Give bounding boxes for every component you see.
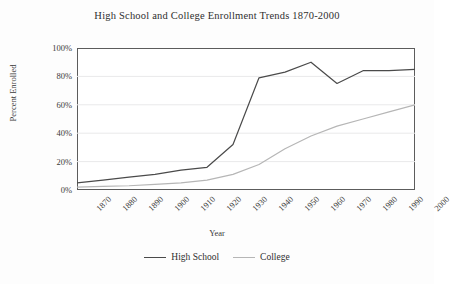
x-tick-label: 1870 [94, 194, 113, 213]
x-tick-label: 1980 [380, 194, 399, 213]
plot-area [77, 48, 415, 190]
legend-item-high-school[interactable]: High School [144, 253, 219, 263]
legend-label: High School [171, 253, 219, 263]
x-tick-label: 1940 [276, 194, 295, 213]
x-tick-label: 1900 [172, 194, 191, 213]
y-tick-label: 20% [2, 157, 72, 167]
y-tick-label: 0% [2, 185, 72, 195]
x-tick-label: 2000 [432, 194, 451, 213]
x-tick-label: 1910 [198, 194, 217, 213]
chart-legend: High SchoolCollege [0, 253, 434, 263]
y-tick-label: 60% [2, 100, 72, 110]
series-line-college [77, 105, 415, 187]
chart-title: High School and College Enrollment Trend… [0, 10, 434, 21]
plot-canvas [77, 48, 415, 190]
y-axis-ticks: 0%20%40%60%80%100% [0, 48, 72, 190]
legend-item-college[interactable]: College [233, 253, 290, 263]
x-tick-label: 1960 [328, 194, 347, 213]
y-tick-label: 100% [2, 43, 72, 53]
x-axis-label: Year [0, 228, 434, 238]
x-tick-label: 1930 [250, 194, 269, 213]
series-line-high-school [77, 62, 415, 183]
x-tick-label: 1990 [406, 194, 425, 213]
x-tick-label: 1890 [146, 194, 165, 213]
x-tick-label: 1880 [120, 194, 139, 213]
legend-swatch-icon [233, 257, 255, 258]
x-tick-label: 1920 [224, 194, 243, 213]
y-tick-label: 40% [2, 128, 72, 138]
x-tick-label: 1970 [354, 194, 373, 213]
legend-swatch-icon [144, 257, 166, 258]
x-tick-label: 1950 [302, 194, 321, 213]
legend-label: College [260, 253, 290, 263]
y-tick-label: 80% [2, 71, 72, 81]
